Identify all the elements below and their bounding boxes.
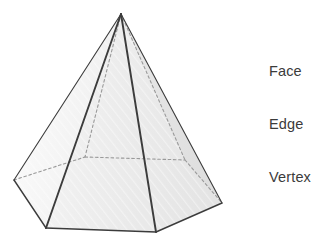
vocabulary-label-list: Face Edge Vertex xyxy=(0,0,327,243)
label-vertex: Vertex xyxy=(269,169,311,185)
diagram-canvas: Face Edge Vertex xyxy=(0,0,327,243)
label-face: Face xyxy=(269,63,302,79)
label-edge: Edge xyxy=(269,116,303,132)
